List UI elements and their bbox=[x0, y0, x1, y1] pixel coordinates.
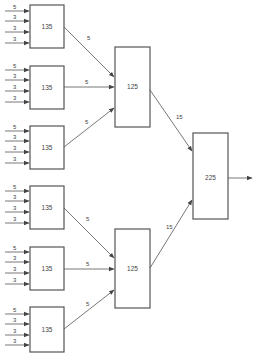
input-label: 3 bbox=[13, 14, 17, 20]
stage1-node-4: 5 3 3 3 135 bbox=[5, 184, 64, 229]
node-value: 135 bbox=[42, 144, 53, 151]
input-label: 3 bbox=[13, 255, 17, 261]
node-value: 125 bbox=[127, 83, 138, 90]
input-label: 3 bbox=[13, 205, 17, 211]
stage1-node-6: 5 3 3 3 135 bbox=[5, 307, 64, 352]
input-label: 3 bbox=[13, 84, 17, 90]
input-label: 5 bbox=[13, 4, 17, 10]
edge-label: 15 bbox=[166, 224, 173, 230]
input-label: 3 bbox=[13, 277, 17, 283]
input-label: 3 bbox=[13, 73, 17, 79]
edge-arrow-icon bbox=[150, 200, 192, 268]
stage2-node-1: 125 bbox=[115, 47, 150, 127]
input-label: 5 bbox=[13, 307, 17, 313]
input-label: 5 bbox=[13, 245, 17, 251]
diagram-canvas: 5 3 3 3 135 5 3 3 3 135 5 3 3 3 135 bbox=[0, 0, 257, 359]
node-value: 135 bbox=[42, 84, 53, 91]
input-label: 5 bbox=[13, 184, 17, 190]
input-label: 3 bbox=[13, 145, 17, 151]
node-value: 135 bbox=[42, 326, 53, 333]
stage1-node-2: 5 3 3 3 135 bbox=[5, 63, 64, 109]
edge-label: 5 bbox=[85, 79, 89, 85]
input-label: 5 bbox=[13, 124, 17, 130]
input-label: 3 bbox=[13, 194, 17, 200]
edge-label: 5 bbox=[87, 35, 91, 41]
node-value: 125 bbox=[127, 265, 138, 272]
node-value: 135 bbox=[42, 23, 53, 30]
input-label: 3 bbox=[13, 317, 17, 323]
node-value: 135 bbox=[42, 265, 53, 272]
input-label: 3 bbox=[13, 134, 17, 140]
edge-label: 5 bbox=[85, 119, 89, 125]
node-value: 135 bbox=[42, 204, 53, 211]
input-label: 3 bbox=[13, 338, 17, 344]
input-label: 3 bbox=[13, 328, 17, 334]
stage2-node-2: 125 bbox=[115, 229, 150, 308]
edge-arrow-icon bbox=[150, 90, 192, 151]
input-label: 3 bbox=[13, 25, 17, 31]
input-label: 5 bbox=[13, 63, 17, 69]
stage3-node: 225 bbox=[193, 133, 252, 219]
input-label: 3 bbox=[13, 36, 17, 42]
stage2-to-stage3-edges: 15 15 bbox=[150, 90, 192, 268]
edge-arrow-icon bbox=[64, 108, 114, 147]
stage1-node-1: 5 3 3 3 135 bbox=[5, 4, 64, 48]
input-label: 3 bbox=[13, 216, 17, 222]
input-label: 3 bbox=[13, 95, 17, 101]
stage1-node-3: 5 3 3 3 135 bbox=[5, 124, 64, 169]
edge-label: 15 bbox=[176, 114, 183, 120]
edge-label: 5 bbox=[86, 301, 90, 307]
stage1-to-stage2-edges: 5 5 5 5 5 5 bbox=[64, 27, 114, 329]
input-label: 3 bbox=[13, 156, 17, 162]
input-label: 3 bbox=[13, 266, 17, 272]
node-value: 225 bbox=[205, 174, 216, 181]
edge-arrow-icon bbox=[64, 290, 114, 329]
stage1-node-5: 5 3 3 3 135 bbox=[5, 245, 64, 290]
edge-label: 5 bbox=[86, 216, 90, 222]
edge-label: 5 bbox=[86, 261, 90, 267]
